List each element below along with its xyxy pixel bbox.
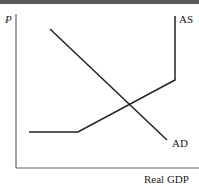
- as-curve-label: AS: [179, 13, 193, 25]
- as-curve: [29, 16, 175, 132]
- ad-curve: [50, 29, 167, 140]
- ad-curve-label: AD: [172, 137, 188, 149]
- x-axis-label: Real GDP: [144, 173, 189, 185]
- y-axis-label: P: [5, 13, 12, 25]
- ad-as-chart: [0, 0, 199, 188]
